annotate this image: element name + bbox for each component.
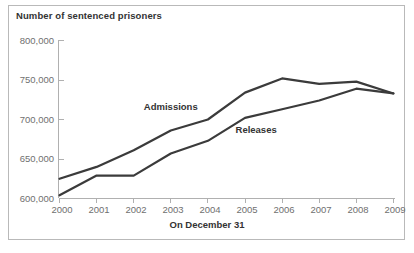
x-tick-label-2007: 2007 [310, 204, 331, 215]
y-tick-label-650000: 650,000 [20, 153, 54, 164]
bottom-clipped-strip [0, 246, 414, 253]
plot-canvas: 800,000 750,000 700,000 650,000 600,000 … [0, 0, 414, 253]
y-tick-label-600000: 600,000 [20, 193, 54, 204]
x-tick-label-2008: 2008 [347, 204, 368, 215]
x-tick-label-2001: 2001 [88, 204, 109, 215]
x-tick-label-2009: 2009 [384, 204, 405, 215]
series-line-releases [60, 89, 394, 196]
x-tick-label-2003: 2003 [162, 204, 183, 215]
series-label-releases: Releases [236, 124, 277, 135]
x-tick-label-2004: 2004 [199, 204, 220, 215]
x-axis: 2000 2001 2002 2003 2004 2005 2006 2007 … [51, 199, 405, 216]
y-tick-label-800000: 800,000 [20, 35, 54, 46]
y-tick-label-700000: 700,000 [20, 114, 54, 125]
x-tick-label-2006: 2006 [273, 204, 294, 215]
x-axis-title: On December 31 [0, 219, 414, 230]
chart-figure: Number of sentenced prisoners 800,000 75… [0, 0, 414, 253]
x-tick-label-2005: 2005 [236, 204, 257, 215]
x-tick-label-2000: 2000 [51, 204, 72, 215]
y-axis: 800,000 750,000 700,000 650,000 600,000 [20, 35, 64, 204]
x-tick-label-2002: 2002 [125, 204, 146, 215]
y-tick-label-750000: 750,000 [20, 74, 54, 85]
data-series-group [60, 78, 394, 195]
series-label-admissions: Admissions [144, 101, 198, 112]
